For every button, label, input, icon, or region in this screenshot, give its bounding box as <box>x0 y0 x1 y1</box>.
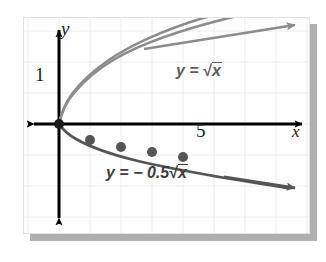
curve-label-upper-radicand: x <box>212 62 222 80</box>
plot-frame <box>23 17 310 234</box>
data-point <box>178 152 188 162</box>
curve-label-lower-lhs: y = − 0.5 <box>106 164 169 181</box>
data-point <box>85 135 95 145</box>
curve-label-lower-radicand: x <box>178 164 188 182</box>
y-tick-label-1: 1 <box>35 64 45 86</box>
data-point <box>54 119 64 129</box>
radical-sign-lower: √ <box>169 164 178 181</box>
y-axis-label: y <box>61 18 69 40</box>
data-point <box>147 147 157 157</box>
figure-container: y x 1 5 y = √x y = − 0.5√x <box>0 0 326 262</box>
data-point <box>116 142 126 152</box>
radical-sign-upper: √ <box>199 62 212 79</box>
curve-label-upper-lhs: y = <box>176 62 199 79</box>
curve-label-sqrt-x: y = √x <box>176 62 222 80</box>
curve-label-neg-half-sqrt-x: y = − 0.5√x <box>106 164 188 182</box>
graph-canvas <box>24 18 309 233</box>
x-axis-label: x <box>292 122 300 142</box>
x-tick-label-5: 5 <box>196 120 206 142</box>
